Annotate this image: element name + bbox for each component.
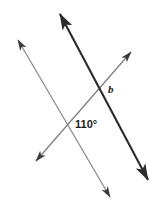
figure-background <box>0 0 161 213</box>
angle-label-b: b <box>108 84 114 95</box>
geometry-diagram <box>0 0 161 213</box>
geometry-figure: 110° b <box>0 0 161 213</box>
angle-label-110: 110° <box>75 119 97 130</box>
